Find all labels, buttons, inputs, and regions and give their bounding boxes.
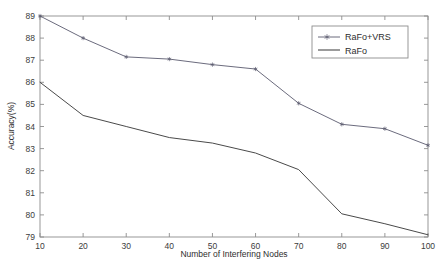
y-tick-label: 80 bbox=[26, 210, 36, 220]
y-tick-label: 85 bbox=[26, 99, 36, 109]
x-tick-label: 20 bbox=[78, 241, 88, 251]
x-axis-title: Number of Interfering Nodes bbox=[180, 249, 287, 259]
y-tick-label: 87 bbox=[26, 55, 36, 65]
x-tick-label: 40 bbox=[165, 241, 175, 251]
y-axis-tick-labels: 7980818283848586878889 bbox=[26, 11, 36, 242]
x-tick-label: 80 bbox=[337, 241, 347, 251]
y-tick-label: 89 bbox=[26, 11, 36, 21]
x-tick-label: 70 bbox=[294, 241, 304, 251]
y-tick-label: 86 bbox=[26, 77, 36, 87]
y-axis-title: Accuracy(%) bbox=[6, 102, 16, 150]
x-tick-label: 90 bbox=[380, 241, 390, 251]
y-tick-label: 81 bbox=[26, 188, 36, 198]
y-tick-label: 82 bbox=[26, 166, 36, 176]
chart-figure: 102030405060708090100 798081828384858687… bbox=[0, 0, 445, 263]
x-tick-label: 100 bbox=[421, 241, 435, 251]
y-tick-label: 79 bbox=[26, 232, 36, 242]
y-tick-label: 83 bbox=[26, 144, 36, 154]
x-tick-label: 30 bbox=[121, 241, 131, 251]
line-chart: 102030405060708090100 798081828384858687… bbox=[0, 0, 445, 263]
y-tick-label: 88 bbox=[26, 33, 36, 43]
x-tick-label: 10 bbox=[35, 241, 45, 251]
legend-label-rafo-vrs: RaFo+VRS bbox=[345, 32, 391, 42]
y-tick-label: 84 bbox=[26, 122, 36, 132]
legend[interactable]: RaFo+VRS RaFo bbox=[312, 26, 408, 58]
legend-label-rafo: RaFo bbox=[345, 46, 367, 56]
